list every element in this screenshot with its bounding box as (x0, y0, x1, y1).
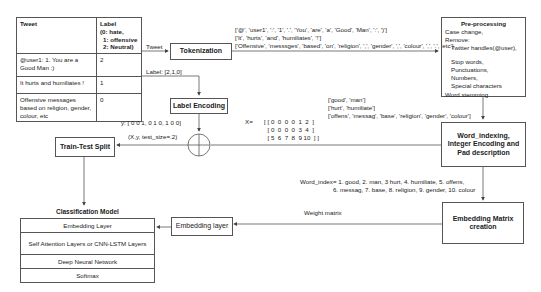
header-label-line: (0: hate, (100, 28, 138, 36)
edge-label-x: X= (245, 118, 253, 126)
word-indexing-node: Word_indexing, Integer Encoding and Pad … (441, 122, 526, 167)
tokens-line: ['It', 'hurts', 'and', 'humiliates', '!'… (235, 34, 321, 42)
matrix-x-row: [ 0 0 0 0 3 4 ] (264, 126, 314, 134)
stemmed-line: ['good', 'man'] (328, 96, 365, 104)
matrix-x-row: [ 5 6 7 8 9 10 ] ] (264, 134, 319, 142)
label-cell: 2 (97, 54, 142, 77)
edge-label-weight-matrix: Weight matrix (304, 209, 342, 217)
model-layer-dnn: Deep Neural Network (21, 255, 154, 269)
header-tweet: Tweet (17, 18, 97, 54)
model-layer-attention: Self Attention Layers or CNN-LSTM Layers (21, 233, 154, 255)
preprocessing-step: Special characters (445, 82, 522, 90)
table-row: Offensive messages based on religion, ge… (17, 94, 142, 122)
model-layer-softmax: Softmax (21, 269, 154, 282)
header-label-line: 2: Neutral) (100, 43, 138, 51)
edge-label-xy-split: (X,y, test_size=.2) (128, 133, 177, 141)
preprocessing-step: Remove: (445, 36, 522, 44)
preprocessing-step: Stop words, (445, 58, 522, 66)
table-row: @user1: 1. You are a Good Man :) 2 (17, 54, 142, 77)
edge-label-tweet: Tweet (146, 43, 163, 51)
embedding-matrix-node: Embedding Matrix creation (442, 202, 524, 244)
word-index-line: Word_index= 1. good, 2. man, 3 hurt, 4. … (300, 178, 464, 186)
model-title: Classification Model (56, 208, 119, 216)
embedding-matrix-label: creation (469, 223, 496, 231)
tweet-cell: @user1: 1. You are a Good Man :) (17, 54, 97, 77)
stemmed-line: ['offens', 'messag', 'base', 'religion',… (328, 112, 471, 120)
embedding-layer-label: Embedding layer (176, 222, 229, 230)
word-indexing-label: Integer Encoding and (448, 140, 520, 148)
label-encoding-label: Label Encoding (173, 102, 225, 110)
embedding-matrix-label: Embedding Matrix (453, 215, 514, 223)
preprocessing-step: Punctuations, (445, 66, 522, 74)
preprocessing-step: Word stemming (445, 91, 522, 99)
label-cell: 1 (97, 77, 142, 94)
edge-label-label: Label: [2,1,0] (146, 68, 182, 76)
preprocessing-step: Numbers, (445, 74, 522, 82)
edge-label-y: y: [ 0 0 1, 0 1 0, 1 0 0] (121, 119, 181, 127)
stemmed-line: ['hurt', 'humiliate'] (328, 104, 375, 112)
word-index-line: 6. messag, 7. base, 8. religion, 9. gend… (333, 186, 475, 194)
tokenization-label: Tokenization (180, 47, 222, 55)
train-test-split-label: Train-Test Split (60, 143, 110, 151)
model-layer-embedding: Embedding Layer (21, 219, 154, 233)
train-test-split-node: Train-Test Split (55, 137, 115, 157)
tokens-line: ['Offensive', 'messsges', 'based', 'on',… (235, 42, 453, 50)
label-cell: 0 (97, 94, 142, 122)
classification-model-stack: Embedding Layer Self Attention Layers or… (20, 218, 155, 283)
tokenization-node: Tokenization (170, 43, 232, 60)
matrix-x-row: [ [ 0 0 0 0 1 2 ] (264, 118, 314, 126)
word-indexing-label: Word_indexing, (457, 132, 509, 140)
tweet-cell: Offensive messages based on religion, ge… (17, 94, 97, 122)
table-header-row: Tweet Label (0: hate, 1: offensive 2: Ne… (17, 18, 142, 54)
tokens-line: ['@', 'user1', ':', '1', '.', 'You', 'ar… (235, 26, 387, 34)
preprocessing-step: Case change, (445, 28, 522, 36)
tweet-cell: It hurts and humiliates ! (17, 77, 97, 94)
header-label-line: Label (100, 20, 138, 28)
header-label-line: 1: offensive (100, 36, 138, 44)
tweet-label-table: Tweet Label (0: hate, 1: offensive 2: Ne… (16, 17, 142, 122)
preprocessing-title: Pre-processing (445, 20, 522, 28)
table-row: It hurts and humiliates ! 1 (17, 77, 142, 94)
word-indexing-label: Pad description (457, 149, 510, 157)
preprocessing-node: Pre-processing Case change, Remove: Twit… (441, 17, 526, 97)
embedding-layer-node: Embedding layer (171, 217, 233, 236)
preprocessing-step: Twitter handles(@user), (445, 44, 522, 52)
label-encoding-node: Label Encoding (170, 98, 228, 114)
header-label: Label (0: hate, 1: offensive 2: Neutral) (97, 18, 142, 54)
